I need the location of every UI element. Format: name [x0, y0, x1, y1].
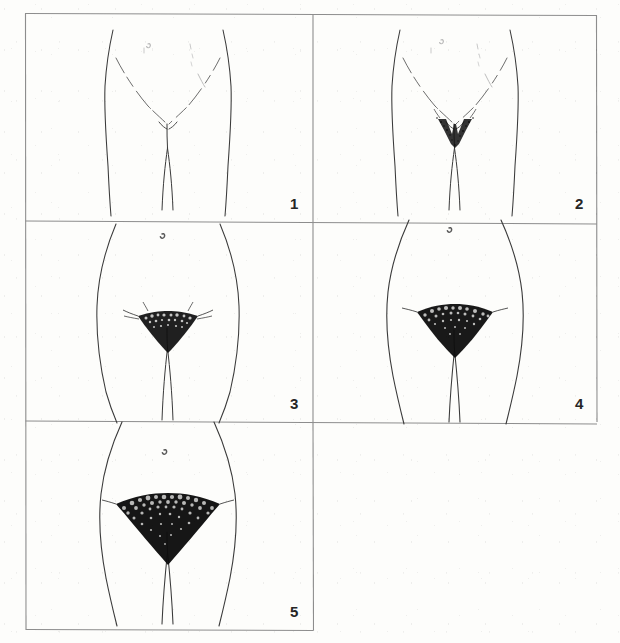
figure-artwork — [0, 0, 620, 643]
panel-5-hair — [102, 493, 234, 565]
panel-number-4: 4 — [575, 396, 583, 411]
panel-2-hair — [434, 109, 476, 148]
panel-number-2: 2 — [575, 196, 583, 211]
panel-number-3: 3 — [290, 396, 298, 411]
panel-2-artwork — [392, 30, 519, 216]
panel-5-artwork — [100, 422, 236, 626]
panel-4-hair — [402, 304, 508, 358]
panel-1-artwork — [105, 30, 232, 216]
panel-grid-frame — [25, 14, 597, 631]
panel-number-5: 5 — [290, 604, 298, 619]
panel-4-artwork — [387, 220, 523, 424]
panel-3-hair — [123, 302, 213, 353]
panel-number-1: 1 — [290, 196, 298, 211]
tanner-stage-figure: 1 2 3 4 5 — [0, 0, 620, 643]
panel-3-artwork — [97, 224, 239, 423]
